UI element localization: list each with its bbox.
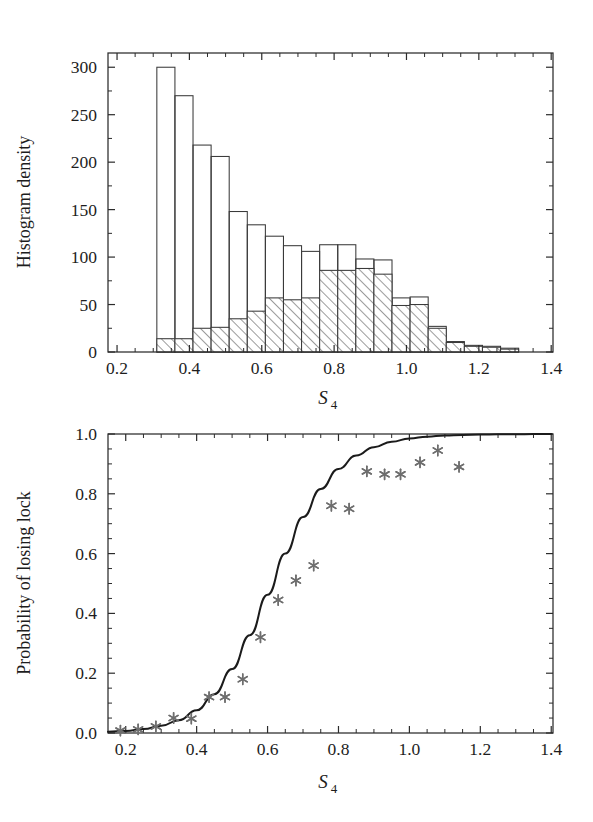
- histogram-y-tick-labels: 050100150200250300: [71, 57, 98, 362]
- histogram-bar-total: [175, 96, 193, 352]
- probability-point-marker: [396, 469, 405, 479]
- probability-point-marker: [345, 504, 354, 514]
- histogram-bar-lost: [374, 274, 392, 352]
- probability-x-tick-label: 0.4: [186, 739, 208, 759]
- probability-y-tick-label: 0.6: [75, 544, 97, 564]
- probability-point-marker: [433, 445, 442, 455]
- probability-point-marker: [455, 462, 464, 472]
- probability-point-marker: [309, 560, 318, 570]
- histogram-bar-total: [193, 145, 211, 352]
- probability-point-marker: [221, 692, 230, 702]
- histogram-x-tick-label: 0.4: [178, 358, 200, 378]
- figure-container: 0.20.40.60.81.01.21.4 050100150200250300…: [0, 0, 593, 822]
- probability-x-axis-title-base: S: [318, 771, 328, 792]
- histogram-bar-lost: [410, 305, 428, 352]
- histogram-panel: 0.20.40.60.81.01.21.4 050100150200250300…: [14, 53, 562, 412]
- histogram-x-tick-label: 1.2: [468, 358, 490, 378]
- probability-panel: 0.20.40.60.81.01.21.4 0.00.20.40.60.81.0…: [14, 424, 562, 796]
- probability-x-tick-label: 1.2: [469, 739, 491, 759]
- probability-point-marker: [256, 632, 265, 642]
- histogram-bar-lost: [446, 343, 464, 352]
- histogram-bar-lost: [211, 327, 229, 352]
- histogram-x-tick-label: 0.6: [251, 358, 273, 378]
- probability-y-axis-title: Probability of losing lock: [14, 491, 34, 675]
- probability-y-tick-label: 1.0: [75, 424, 97, 444]
- probability-y-tick-label: 0.4: [75, 603, 97, 623]
- probability-x-tick-label: 1.4: [540, 739, 562, 759]
- histogram-bar-total: [211, 156, 229, 352]
- histogram-bar-lost: [283, 300, 301, 352]
- histogram-x-tick-label: 1.0: [396, 358, 418, 378]
- probability-y-tick-labels: 0.00.20.40.60.81.0: [75, 424, 97, 743]
- probability-point-marker: [380, 469, 389, 479]
- histogram-bar-lost: [265, 298, 283, 352]
- histogram-y-tick-label: 250: [71, 105, 98, 125]
- probability-point-marker: [291, 575, 300, 585]
- histogram-y-tick-label: 0: [88, 342, 97, 362]
- histogram-bar-lost: [392, 305, 410, 352]
- histogram-y-tick-label: 100: [71, 247, 98, 267]
- histogram-bars: [157, 67, 519, 352]
- histogram-bar-lost: [356, 268, 374, 352]
- histogram-x-tick-label: 0.2: [106, 358, 128, 378]
- histogram-x-axis-title-base: S: [318, 387, 328, 408]
- probability-x-axis-title-subscript: 4: [331, 781, 338, 796]
- logistic-fit-curve: [108, 434, 551, 732]
- histogram-y-tick-label: 50: [80, 295, 98, 315]
- probability-x-tick-label: 0.8: [328, 739, 350, 759]
- histogram-x-tick-label: 0.8: [323, 358, 345, 378]
- probability-y-tick-label: 0.2: [75, 663, 97, 683]
- histogram-bar-lost: [247, 311, 265, 352]
- probability-point-marker: [416, 457, 425, 467]
- probability-x-tick-label: 1.0: [398, 739, 420, 759]
- histogram-x-axis-title-subscript: 4: [331, 397, 338, 412]
- probability-x-tick-labels: 0.20.40.60.81.01.21.4: [115, 739, 563, 759]
- probability-y-tick-label: 0.8: [75, 484, 97, 504]
- histogram-bar-lost: [464, 346, 482, 352]
- histogram-bar-lost: [302, 298, 320, 352]
- histogram-bar-lost: [193, 328, 211, 352]
- histogram-bar-lost: [482, 347, 500, 352]
- histogram-x-axis-title: S 4: [318, 387, 338, 412]
- histogram-bar-lost: [338, 270, 356, 352]
- histogram-bar-lost: [320, 270, 338, 352]
- probability-point-marker: [238, 674, 247, 684]
- histogram-y-tick-label: 150: [71, 200, 98, 220]
- probability-point-marker: [274, 595, 283, 605]
- probability-x-axis-title: S 4: [318, 771, 338, 796]
- histogram-bar-lost: [175, 339, 193, 352]
- histogram-y-tick-label: 300: [71, 57, 98, 77]
- histogram-x-tick-label: 1.4: [540, 358, 562, 378]
- histogram-x-tick-labels: 0.20.40.60.81.01.21.4: [106, 358, 562, 378]
- histogram-bar-lost: [157, 339, 175, 352]
- probability-data-points: [116, 445, 464, 736]
- histogram-y-axis-title: Histogram density: [14, 136, 34, 269]
- probability-point-marker: [327, 501, 336, 511]
- probability-x-tick-label: 0.6: [257, 739, 279, 759]
- histogram-y-tick-label: 200: [71, 152, 98, 172]
- probability-x-tick-label: 0.2: [115, 739, 137, 759]
- histogram-bar-lost: [229, 319, 247, 352]
- probability-y-tick-label: 0.0: [75, 723, 97, 743]
- histogram-bar-total: [157, 67, 175, 352]
- probability-point-marker: [362, 466, 371, 476]
- histogram-bar-lost: [428, 328, 446, 352]
- figure-svg: 0.20.40.60.81.01.21.4 050100150200250300…: [0, 0, 593, 822]
